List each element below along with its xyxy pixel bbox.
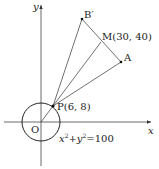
segment-PA	[53, 62, 121, 106]
point-B-prime-label: B′	[84, 9, 94, 20]
point-P	[51, 104, 54, 107]
segment-OP	[41, 106, 53, 122]
point-A	[120, 61, 123, 64]
point-B-prime	[81, 18, 84, 21]
origin-label: O	[31, 124, 39, 135]
coordinate-diagram: y x O P(6, 8) M(30, 40) A B′ x2+y2=100	[0, 0, 159, 169]
y-axis-label: y	[32, 1, 39, 12]
circle-equation: x2+y2=100	[59, 132, 114, 144]
segment-PM	[53, 42, 101, 106]
point-P-label: P(6, 8)	[57, 101, 91, 112]
point-A-label: A	[123, 52, 132, 63]
eq-plus: +	[68, 133, 76, 144]
x-axis-label: x	[148, 125, 154, 136]
eq-equals: =100	[86, 133, 113, 144]
segment-PB-prime	[53, 19, 82, 106]
point-M-label: M(30, 40)	[102, 31, 152, 42]
